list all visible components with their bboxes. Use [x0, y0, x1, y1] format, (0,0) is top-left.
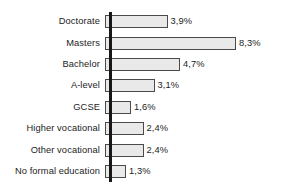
category-label-masters: Masters — [0, 38, 105, 49]
category-label-higher-vocational: Higher vocational — [0, 123, 105, 134]
bar-area: 1,6% — [105, 97, 286, 118]
bar-masters[interactable] — [105, 37, 236, 50]
bar-area: 4,7% — [105, 54, 286, 75]
chart-row: Bachelor 4,7% — [0, 54, 286, 75]
bar-area: 2,4% — [105, 139, 286, 160]
chart-row: GCSE 1,6% — [0, 97, 286, 118]
bar-bachelor[interactable] — [105, 58, 180, 71]
chart-row: Other vocational 2,4% — [0, 139, 286, 160]
bar-area: 3,1% — [105, 75, 286, 96]
chart-row: Doctorate 3,9% — [0, 11, 286, 32]
chart-row: Masters 8,3% — [0, 32, 286, 53]
value-label-higher-vocational: 2,4% — [144, 123, 169, 134]
chart-row: A-level 3,1% — [0, 75, 286, 96]
category-label-a-level: A-level — [0, 80, 105, 91]
bar-area: 1,3% — [105, 161, 286, 182]
bar-area: 3,9% — [105, 11, 286, 32]
value-label-bachelor: 4,7% — [180, 59, 205, 70]
bar-chart: Doctorate 3,9% Masters 8,3% Bachelor 4,7… — [0, 0, 286, 194]
bar-area: 8,3% — [105, 32, 286, 53]
category-label-bachelor: Bachelor — [0, 59, 105, 70]
bar-area: 2,4% — [105, 118, 286, 139]
category-label-other-vocational: Other vocational — [0, 145, 105, 156]
category-label-no-formal-education: No formal education — [0, 166, 105, 177]
category-label-doctorate: Doctorate — [0, 16, 105, 27]
category-label-gcse: GCSE — [0, 102, 105, 113]
chart-row: No formal education 1,3% — [0, 161, 286, 182]
value-label-other-vocational: 2,4% — [144, 145, 169, 156]
value-label-a-level: 3,1% — [155, 80, 180, 91]
value-label-no-formal-education: 1,3% — [126, 166, 151, 177]
chart-row: Higher vocational 2,4% — [0, 118, 286, 139]
value-label-masters: 8,3% — [236, 38, 261, 49]
bar-doctorate[interactable] — [105, 15, 168, 28]
value-label-gcse: 1,6% — [131, 102, 156, 113]
plot-area: Doctorate 3,9% Masters 8,3% Bachelor 4,7… — [0, 11, 286, 183]
category-axis-line — [109, 12, 112, 182]
bar-a-level[interactable] — [105, 79, 155, 92]
value-label-doctorate: 3,9% — [168, 16, 193, 27]
